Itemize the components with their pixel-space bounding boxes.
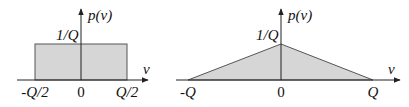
pdf-diagrams: p(v) v 1/Q -Q/2 0 Q/2 p(v) v 1/Q -Q 0 Q — [0, 0, 409, 107]
height-label: 1/Q — [256, 27, 279, 43]
uniform-pdf-plot: p(v) v 1/Q -Q/2 0 Q/2 — [17, 7, 150, 100]
height-label: 1/Q — [56, 27, 79, 43]
tick-label-neg: -Q/2 — [21, 84, 49, 100]
tick-label-zero: 0 — [277, 84, 285, 100]
y-axis-label: p(v) — [287, 7, 312, 24]
triangular-pdf-plot: p(v) v 1/Q -Q 0 Q — [176, 7, 400, 100]
tick-label-pos: Q/2 — [116, 84, 139, 100]
x-axis-label: v — [143, 61, 150, 77]
y-axis-label: p(v) — [87, 7, 112, 24]
x-axis-label: v — [388, 61, 395, 77]
tick-label-neg: -Q — [180, 84, 196, 100]
tick-label-pos: Q — [368, 84, 379, 100]
tick-label-zero: 0 — [77, 84, 85, 100]
